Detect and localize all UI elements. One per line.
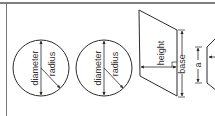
- polygon-outline: [207, 37, 215, 91]
- base-label: base: [177, 54, 187, 74]
- geometry-diagram: diameter radius diameter radius height b…: [0, 0, 215, 116]
- side-label-a: a: [193, 62, 203, 67]
- polygon-figure: a: [193, 37, 215, 91]
- circle-figure-2: diameter radius: [76, 40, 132, 96]
- parallelogram-figure: height base: [139, 10, 187, 97]
- circle-figure-1: diameter radius: [13, 40, 69, 96]
- radius-label: radius: [47, 51, 57, 76]
- diagram-svg: diameter radius diameter radius height b…: [0, 0, 215, 116]
- radius-label: radius: [110, 51, 120, 76]
- diameter-label: diameter: [30, 50, 40, 85]
- diameter-label: diameter: [93, 50, 103, 85]
- height-label: height: [156, 40, 166, 65]
